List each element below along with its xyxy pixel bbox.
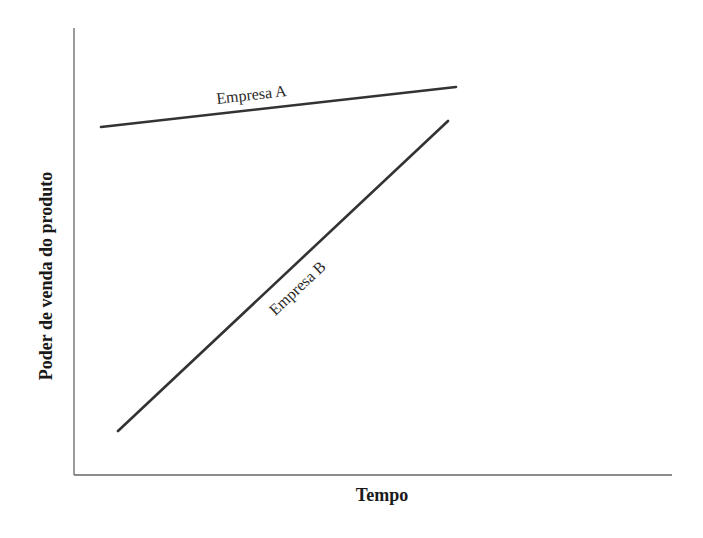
x-axis-title: Tempo: [356, 485, 408, 505]
line-chart: Empresa A Empresa B Tempo Poder de venda…: [0, 0, 703, 538]
series-line-empresa-b: [118, 121, 448, 431]
y-axis-title: Poder de venda do produto: [36, 172, 56, 380]
series-label-empresa-b: Empresa B: [266, 258, 330, 319]
series-label-empresa-a: Empresa A: [215, 82, 288, 108]
